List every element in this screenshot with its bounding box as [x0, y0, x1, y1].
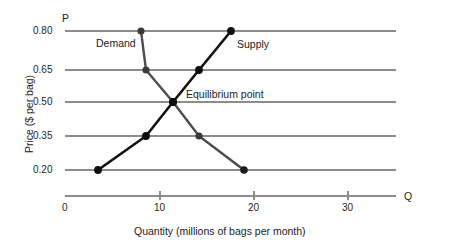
chart-figure: P 0.80 0.65 0.50 0.35 0.20 Price ($ per … — [0, 0, 458, 248]
y-axis-title: Price ($ per bag) — [23, 59, 35, 169]
x-tick-label-10: 10 — [154, 203, 165, 213]
x-axis-title: Quantity (millions of bags per month) — [134, 226, 306, 237]
x-axis — [65, 191, 396, 200]
demand-curve-line — [141, 31, 244, 170]
supply-point-3 — [195, 66, 203, 74]
supply-curve — [94, 27, 235, 174]
y-tick-label-0-35: 0.35 — [33, 131, 52, 141]
demand-point-3 — [195, 132, 202, 139]
y-tick-label-0-50: 0.50 — [33, 97, 52, 107]
demand-curve — [137, 27, 247, 173]
demand-point-1 — [142, 66, 149, 73]
y-tick-label-0-65: 0.65 — [33, 65, 52, 75]
x-tick-label-20: 20 — [248, 203, 259, 213]
supply-curve-label: Supply — [237, 39, 269, 50]
x-tick-label-30: 30 — [342, 203, 353, 213]
equilibrium-point-label: Equilibrium point — [186, 89, 264, 100]
chart-plot-area — [0, 0, 458, 248]
y-tick-label-0-20: 0.20 — [33, 165, 52, 175]
y-axis-symbol: P — [62, 13, 69, 24]
supply-point-4 — [227, 27, 235, 35]
supply-curve-line — [98, 31, 231, 170]
demand-point-0 — [137, 27, 144, 34]
x-tick-label-0: 0 — [62, 203, 68, 213]
supply-point-0 — [94, 166, 102, 174]
demand-point-4 — [240, 166, 248, 174]
x-axis-symbol: Q — [404, 191, 412, 202]
supply-point-2 — [169, 98, 177, 106]
gridlines — [65, 31, 396, 196]
supply-point-1 — [142, 132, 150, 140]
y-tick-label-0-80: 0.80 — [33, 26, 52, 36]
demand-curve-label: Demand — [96, 38, 136, 49]
